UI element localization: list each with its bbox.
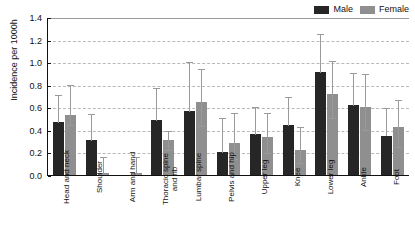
error-bar-cap: [317, 34, 324, 35]
y-tick-label: 0.6: [6, 104, 42, 113]
error-bar: [353, 73, 354, 106]
bar-slot: [295, 18, 306, 175]
bar-slot: [184, 18, 195, 175]
bar-slot: [196, 18, 207, 175]
bar-group: [278, 18, 311, 175]
error-bar: [386, 108, 387, 136]
y-tick-label: 0.8: [6, 82, 42, 91]
x-label-slot: Lumbar spine: [179, 177, 212, 229]
x-tick-label: Head and neck: [63, 150, 72, 204]
error-bar: [189, 62, 190, 112]
error-bar: [168, 131, 169, 150]
error-bar-cap: [350, 73, 357, 74]
bar-slot: [348, 18, 359, 175]
error-bar: [91, 114, 92, 141]
error-bar: [300, 127, 301, 163]
error-bar-cap: [362, 74, 369, 75]
bar-slot: [151, 18, 162, 175]
bar-male: [348, 105, 359, 175]
x-label-slot: Shoulder: [80, 177, 113, 229]
legend-label-male: Male: [333, 5, 353, 14]
x-axis-labels: Head and neckShoulderArm and handThoraci…: [47, 177, 409, 229]
bar-slot: [283, 18, 294, 175]
error-bar-cap: [395, 147, 402, 148]
y-tick-label: 0.2: [6, 149, 42, 158]
x-tick-label: Upper leg: [261, 160, 270, 195]
x-tick-label: Pelvis and hip: [228, 152, 237, 202]
error-bar-cap: [297, 127, 304, 128]
y-tick-label: 1.4: [6, 14, 42, 23]
bar-group: [376, 18, 409, 175]
error-bar-cap: [252, 107, 259, 108]
bar-slot: [250, 18, 261, 175]
legend-item-male: Male: [314, 5, 353, 14]
bar-group: [179, 18, 212, 175]
bar-group: [311, 18, 344, 175]
x-label-slot: Head and neck: [47, 177, 80, 229]
x-tick-label: Lumbar spine: [195, 153, 204, 201]
error-bar-cap: [219, 118, 226, 119]
bar-slot: [327, 18, 338, 175]
error-bar-cap: [297, 163, 304, 164]
bar-group: [343, 18, 376, 175]
bar-pair: [179, 18, 212, 175]
error-bar: [255, 107, 256, 135]
error-bar-cap: [362, 130, 369, 131]
error-bar: [222, 118, 223, 153]
bar-slot: [360, 18, 371, 175]
error-bar-cap: [198, 126, 205, 127]
chart-figure: Male Female Incidence per 1000h 0.00.20.…: [0, 0, 415, 229]
error-bar: [365, 74, 366, 129]
bar-group: [81, 18, 114, 175]
error-bar-cap: [329, 118, 336, 119]
bar-group: [245, 18, 278, 175]
error-bar-cap: [231, 113, 238, 114]
x-tick-label: Shoulder: [96, 161, 105, 193]
bar-slot: [315, 18, 326, 175]
bar-pair: [278, 18, 311, 175]
error-bar-cap: [285, 97, 292, 98]
y-tick-label: 0.0: [6, 172, 42, 181]
bar-male: [283, 125, 294, 175]
legend-swatch-female: [360, 6, 375, 14]
error-bar-cap: [383, 108, 390, 109]
error-bar: [70, 85, 71, 126]
error-bar-cap: [395, 100, 402, 101]
error-bar: [320, 34, 321, 74]
bar-pair: [376, 18, 409, 175]
error-bar: [288, 97, 289, 126]
x-label-slot: Knee: [277, 177, 310, 229]
chart-legend: Male Female: [314, 3, 409, 16]
x-label-slot: Foot: [376, 177, 409, 229]
legend-label-female: Female: [379, 5, 409, 14]
error-bar: [398, 100, 399, 146]
error-bar-cap: [165, 131, 172, 132]
legend-item-female: Female: [360, 5, 409, 14]
y-tick-label: 1.0: [6, 59, 42, 68]
error-bar: [332, 61, 333, 119]
error-bar-cap: [329, 61, 336, 62]
x-label-slot: Ankle: [343, 177, 376, 229]
error-bar-cap: [264, 153, 271, 154]
x-tick-label: Arm and hand: [129, 152, 138, 202]
x-label-slot: Upper leg: [244, 177, 277, 229]
error-bar-cap: [153, 88, 160, 89]
bar-pair: [343, 18, 376, 175]
error-bar-cap: [100, 157, 107, 158]
bar-slot: [381, 18, 392, 175]
x-label-slot: Thoracic spineand rib: [146, 177, 179, 229]
x-tick-label: Lower leg: [327, 160, 336, 195]
error-bar-cap: [186, 62, 193, 63]
bar-male: [381, 136, 392, 176]
x-tick-label: Thoracic spineand rib: [162, 151, 179, 207]
legend-swatch-male: [314, 6, 329, 14]
x-tick-label: Foot: [393, 169, 402, 185]
error-bar-cap: [67, 125, 74, 126]
x-tick-label: Ankle: [360, 167, 369, 187]
error-bar-cap: [67, 85, 74, 86]
y-tick-label: 0.4: [6, 127, 42, 136]
x-label-slot: Pelvis and hip: [212, 177, 245, 229]
error-bar: [201, 69, 202, 127]
y-tick-label: 1.2: [6, 37, 42, 46]
bar-slot: [262, 18, 273, 175]
